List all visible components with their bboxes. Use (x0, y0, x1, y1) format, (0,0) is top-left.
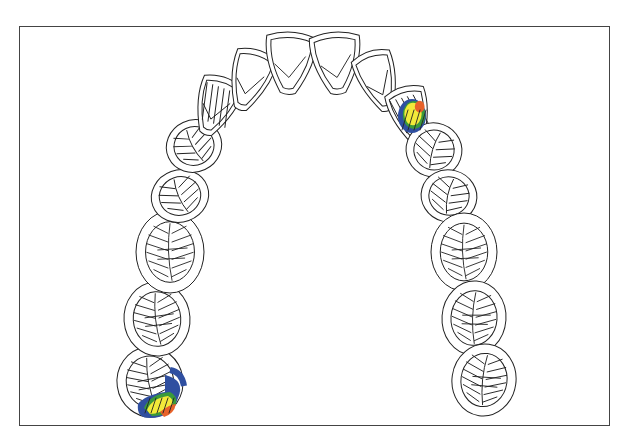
contact-area-upper-right (398, 99, 426, 133)
tooth-R-molar-1 (439, 279, 508, 357)
tooth-L-molar-0 (136, 211, 204, 293)
tooth-L-molar-1 (121, 280, 192, 358)
teeth-group (112, 30, 520, 421)
dental-arch-diagram (0, 0, 630, 446)
tooth-R-molar-0 (431, 213, 497, 291)
tooth-R-molar-2 (447, 340, 520, 420)
